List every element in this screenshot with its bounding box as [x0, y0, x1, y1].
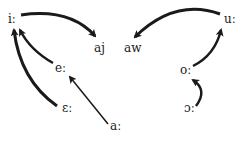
arrow-E-to-i — [14, 30, 57, 106]
node-O: ɔː — [184, 102, 195, 114]
arrow-e-to-i — [20, 30, 53, 63]
arrow-u-to-aw — [135, 9, 220, 37]
vowel-shift-diagram: iː eː ɛː aː aj aw uː oː ɔː — [0, 0, 242, 146]
node-e: eː — [55, 62, 66, 74]
node-o: oː — [180, 64, 191, 76]
node-i: iː — [8, 13, 16, 25]
node-u: uː — [224, 13, 236, 25]
arrow-o-to-u — [193, 30, 221, 66]
arrow-a-to-e — [70, 77, 108, 124]
node-aw: aw — [124, 42, 141, 54]
arrow-i-to-aj — [21, 14, 95, 36]
node-a: aː — [110, 120, 121, 132]
node-aj: aj — [94, 42, 105, 54]
node-E: ɛː — [62, 102, 72, 114]
